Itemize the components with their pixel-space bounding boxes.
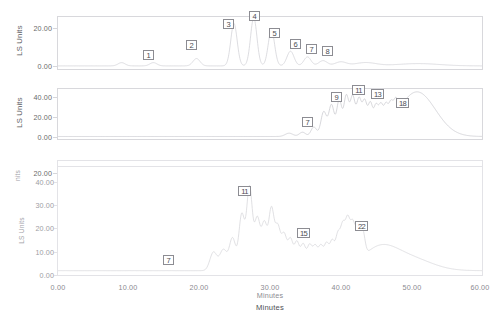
- xtick-10: 10.00: [114, 283, 142, 292]
- peak-label-p3-7: 7: [163, 255, 174, 265]
- chromatogram-figure: LS Units 20.00 0.00 1 2 3 4 5 6 7 8 LS U…: [0, 0, 502, 322]
- peak-label-p1-1: 1: [143, 50, 154, 60]
- xtick-40: 40.00: [327, 283, 355, 292]
- peak-label-p1-2: 2: [186, 40, 197, 50]
- xtick-60: 60.00: [466, 283, 494, 292]
- panel-3-tick-20: [54, 228, 57, 229]
- panel-3-tick-30: [54, 205, 57, 206]
- panel-3-ytick-20: 20.00: [20, 224, 54, 233]
- panel-2-ytick-20: 20.00: [18, 113, 52, 122]
- panel-2-plot-area: [57, 88, 483, 140]
- peak-label-p2-9: 9: [331, 92, 342, 102]
- panel-1-ytick-1: 0.00: [18, 62, 52, 71]
- xtick-50: 50.00: [398, 283, 426, 292]
- panel-3-overlay-tick-20: [53, 173, 57, 174]
- panel-2-tick-20: [53, 117, 57, 118]
- panel-3-tick-10: [54, 252, 57, 253]
- panel-3-ytick-0: 0.00: [20, 271, 54, 280]
- panel-1-y-axis-label: LS Units: [15, 15, 24, 67]
- panel-1-tick-0: [53, 66, 57, 67]
- panel-3-trace: [58, 167, 482, 275]
- peak-label-p1-5: 5: [269, 28, 280, 38]
- panel-1-tick-20: [53, 28, 57, 29]
- peak-label-p3-11: 11: [238, 186, 251, 196]
- peak-label-p3-15: 15: [297, 228, 310, 238]
- panel-3-tick-0: [54, 275, 57, 276]
- panel-3-ytick-overlay-20: 20.00: [18, 169, 52, 178]
- x-axis-label-lower: Minutes: [246, 303, 294, 312]
- peak-label-p1-3: 3: [223, 19, 234, 29]
- panel-3-plot-area: [57, 166, 483, 276]
- panel-2-tick-0: [53, 137, 57, 138]
- panel-3-ytick-30: 30.00: [20, 201, 54, 210]
- panel-3-ytick-40: 40.00: [20, 178, 54, 187]
- peak-label-p2-13: 13: [371, 89, 384, 99]
- peak-label-p1-8: 8: [322, 46, 333, 56]
- panel-2-ytick-40: 40.00: [18, 93, 52, 102]
- panel-1-plot-area: [57, 16, 483, 70]
- panel-3-tick-40: [54, 182, 57, 183]
- peak-label-p1-4: 4: [249, 11, 260, 21]
- x-axis-label: Minutes: [248, 291, 292, 300]
- peak-label-p2-11: 11: [352, 85, 365, 95]
- peak-label-p1-6: 6: [290, 39, 301, 49]
- panel-1-ytick-0: 20.00: [18, 24, 52, 33]
- xtick-0: 0.00: [44, 283, 72, 292]
- panel-1-trace: [58, 17, 482, 69]
- panel-3-ytick-10: 10.00: [20, 248, 54, 257]
- panel-2-trace: [58, 89, 482, 139]
- panel-2-tick-40: [53, 97, 57, 98]
- peak-label-p1-7: 7: [306, 44, 317, 54]
- peak-label-p3-22: 22: [355, 221, 368, 231]
- peak-label-p2-7: 7: [302, 117, 313, 127]
- peak-label-p2-18: 18: [396, 98, 409, 108]
- xtick-20: 20.00: [185, 283, 213, 292]
- panel-2-ytick-0: 0.00: [18, 133, 52, 142]
